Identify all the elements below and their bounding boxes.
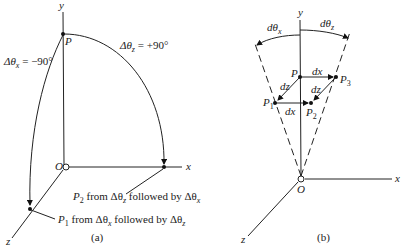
edge-dx-top-label: dx [312,66,322,77]
origin-b [298,176,304,182]
dashed-line-right [301,32,350,176]
edge-dz-left-label: dz [280,81,290,92]
figure-b [248,20,392,236]
diagram-canvas [0,0,403,249]
delta-theta-x-label: Δθx = −90° [4,56,53,70]
p2-annotation: P2 from Δθz followed by Δθx [73,191,200,205]
z-axis-label-b: z [241,234,245,245]
point-p3-label-b: P3 [340,74,351,88]
p1-annotation: P1 from Δθx followed by Δθz [58,214,185,228]
arc-d-theta-x [257,35,300,45]
edge-dx-bottom-label: dx [285,106,295,117]
d-theta-x-label: dθx [267,22,281,36]
point-p-b [298,75,302,79]
x-axis-label-b: x [395,173,400,184]
d-theta-z-label: dθz [320,18,334,32]
point-p2-a [162,165,166,169]
origin-label-b: O [297,184,305,195]
y-axis-label-a: y [59,0,64,11]
z-axis-b [248,182,298,236]
point-p-label-b: P [291,68,298,79]
y-axis-b [300,20,301,176]
point-p2-b [309,101,313,105]
point-p1-label-b: P1 [263,97,274,111]
point-p-label-a: P [65,36,72,47]
y-axis-label-b: y [298,7,303,18]
caption-a: (a) [91,232,103,243]
edge-dz-right-label: dz [311,84,321,95]
origin-label-a: O [55,161,63,172]
point-p2-label-b: P2 [306,107,317,121]
caption-b: (b) [317,232,330,243]
z-axis-label-a: z [6,236,10,247]
x-axis-label-a: x [186,161,191,172]
leader-p1 [31,210,55,219]
point-p1-a [28,207,32,211]
point-p3-b [334,75,338,79]
z-axis-a [12,170,63,238]
delta-theta-z-label: Δθz = +90° [120,40,168,54]
origin-a [63,164,69,170]
